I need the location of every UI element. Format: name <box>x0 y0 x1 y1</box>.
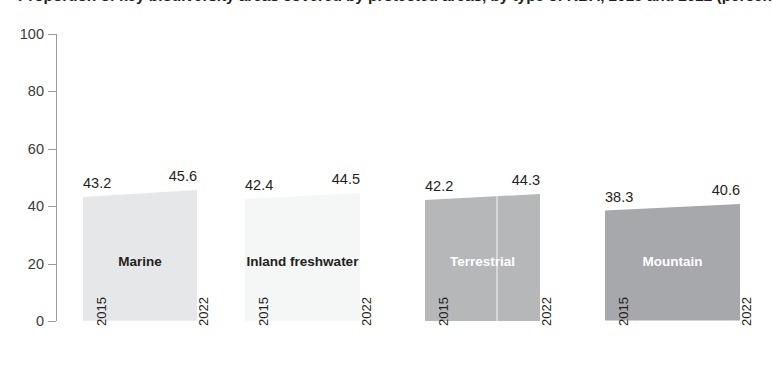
y-axis-tick-label: 80 <box>2 84 44 99</box>
value-label-end: 44.5 <box>245 172 360 187</box>
y-axis-tick <box>48 149 56 150</box>
band-label: Mountain <box>605 255 740 269</box>
band-group-inland-freshwater: Inland freshwater42.444.520152022 <box>245 0 360 387</box>
x-axis-year-label: 2022 <box>197 297 210 326</box>
y-axis-tick-label: 100 <box>2 27 44 42</box>
band-group-marine: Marine43.245.620152022 <box>83 0 197 387</box>
band-group-mountain: Mountain38.340.620152022 <box>605 0 740 387</box>
x-axis-year-label: 2015 <box>257 297 270 326</box>
y-axis-tick-label: 0 <box>2 314 44 329</box>
y-axis-tick <box>48 206 56 207</box>
band-group-terrestrial: Terrestrial42.244.320152022 <box>425 0 540 387</box>
x-axis-year-label: 2022 <box>740 297 753 326</box>
band-label: Inland freshwater <box>245 255 360 269</box>
band-label: Terrestrial <box>425 255 540 269</box>
x-axis-year-label: 2015 <box>437 297 450 326</box>
y-axis-tick-label: 20 <box>2 257 44 272</box>
y-axis-tick <box>48 34 56 35</box>
y-axis-tick <box>48 321 56 322</box>
band-label: Marine <box>83 255 197 269</box>
x-axis-year-label: 2015 <box>617 297 630 326</box>
chart-container: Proportion of key biodiversity areas cov… <box>0 0 772 387</box>
value-label-end: 45.6 <box>83 169 197 184</box>
x-axis-year-label: 2022 <box>360 297 373 326</box>
x-axis-year-label: 2015 <box>95 297 108 326</box>
x-axis-year-label: 2022 <box>540 297 553 326</box>
y-axis-line <box>56 34 57 321</box>
y-axis-tick-label: 60 <box>2 142 44 157</box>
y-axis-tick <box>48 91 56 92</box>
value-label-end: 40.6 <box>605 183 740 198</box>
value-label-end: 44.3 <box>425 173 540 188</box>
y-axis-tick <box>48 264 56 265</box>
y-axis-tick-label: 40 <box>2 199 44 214</box>
